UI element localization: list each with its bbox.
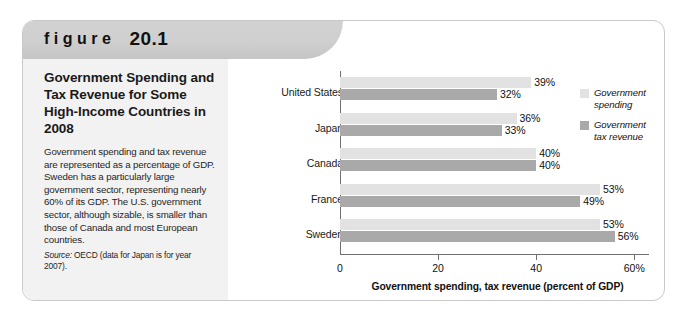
figure-description: Government spending and tax revenue are …: [44, 146, 215, 247]
category-label: Canada: [307, 157, 343, 169]
x-axis-title: Government spending, tax revenue (percen…: [340, 281, 655, 292]
figure-header-word: figure: [44, 30, 115, 47]
x-axis-tick: [536, 255, 537, 260]
bar-value-label: 40%: [539, 147, 560, 159]
x-axis-tick-label: 40: [530, 262, 542, 274]
x-axis-tick-label: 20: [432, 262, 444, 274]
category-label: Japan: [315, 122, 343, 134]
figure-text-panel: Government Spending and Tax Revenue for …: [23, 59, 228, 301]
legend-item-government-spending: Government spending: [580, 87, 665, 110]
x-axis-line: [340, 254, 649, 255]
bar-tax-revenue: [340, 89, 497, 100]
bar-tax-revenue: [340, 160, 536, 171]
bar-tax-revenue: [340, 196, 580, 207]
figure-header-band: figure20.1: [23, 21, 343, 59]
bar-tax-revenue: [340, 125, 502, 136]
category-label: United States: [281, 86, 343, 98]
figure-source-note: Source: OECD (data for Japan is for year…: [44, 250, 215, 272]
legend-label-spending-line1: Government: [594, 87, 646, 98]
source-label: Source:: [44, 250, 72, 260]
legend-swatch-tax-revenue-icon: [580, 121, 589, 130]
figure-header-number: 20.1: [129, 28, 168, 49]
bar-value-label: 32%: [500, 88, 521, 100]
x-axis-tick: [634, 255, 635, 260]
bar-value-label: 53%: [603, 183, 624, 195]
legend-label-tax-revenue: Government tax revenue: [594, 119, 665, 142]
bar-spending: [340, 77, 531, 88]
legend-label-spending: Government spending: [594, 87, 665, 110]
bar-value-label: 36%: [520, 112, 541, 124]
legend-label-tax-revenue-line1: Government: [594, 119, 646, 130]
bar-value-label: 33%: [505, 124, 526, 136]
legend-label-tax-revenue-line2: tax revenue: [594, 131, 643, 142]
bar-spending: [340, 113, 517, 124]
legend-label-spending-line2: spending: [594, 99, 632, 110]
x-axis-tick: [438, 255, 439, 260]
bar-value-label: 56%: [618, 230, 639, 242]
category-label: Sweden: [306, 228, 343, 240]
figure-container: figure20.1 Government Spending and Tax R…: [22, 20, 665, 301]
figure-title: Government Spending and Tax Revenue for …: [44, 69, 215, 137]
x-axis-tick-label: 60%: [624, 262, 645, 274]
figure-header-text: figure20.1: [44, 28, 168, 50]
legend-item-government-tax-revenue: Government tax revenue: [580, 119, 665, 142]
bar-spending: [340, 184, 600, 195]
bar-value-label: 53%: [603, 218, 624, 230]
category-label: France: [311, 193, 343, 205]
bar-value-label: 39%: [534, 76, 555, 88]
chart-legend: Government spending Government tax reven…: [580, 87, 665, 151]
legend-swatch-spending-icon: [580, 89, 589, 98]
bar-value-label: 40%: [539, 159, 560, 171]
bar-tax-revenue: [340, 231, 615, 242]
bar-spending: [340, 148, 536, 159]
chart-area: United States39%32%Japan36%33%Canada40%4…: [228, 59, 665, 301]
bar-value-label: 49%: [583, 195, 604, 207]
x-axis-tick-label: 0: [337, 262, 343, 274]
bar-spending: [340, 219, 600, 230]
